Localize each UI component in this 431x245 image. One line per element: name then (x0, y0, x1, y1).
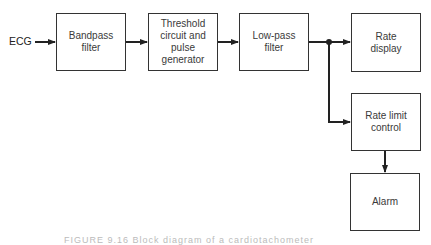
block-alarm: Alarm (350, 173, 420, 231)
block-rate-display: Rate display (351, 13, 421, 72)
ecg-input-label: ECG (9, 35, 32, 47)
block-label-line: Threshold (160, 18, 206, 30)
arrow-lowpass-to-rate-limit (329, 42, 350, 122)
block-label-line: display (370, 43, 401, 55)
block-label-line: Alarm (372, 196, 398, 208)
block-low-pass-filter: Low-pass filter (239, 13, 309, 71)
block-label-line: control (365, 122, 407, 134)
block-label-line: pulse (160, 42, 206, 54)
block-label-line: circuit and (160, 30, 206, 42)
block-label-line: filter (69, 42, 113, 54)
block-label-line: generator (160, 54, 206, 66)
block-label-line: Rate limit (365, 110, 407, 122)
block-label-line: Low-pass (253, 30, 296, 42)
block-threshold-pulse-generator: Threshold circuit and pulse generator (148, 13, 218, 71)
figure-caption: FIGURE 9.16 Block diagram of a cardiotac… (64, 235, 314, 245)
block-label-line: Bandpass (69, 30, 113, 42)
block-label-line: filter (253, 42, 296, 54)
block-label-line: Rate (370, 31, 401, 43)
block-rate-limit-control: Rate limit control (351, 93, 421, 151)
block-bandpass-filter: Bandpass filter (56, 13, 126, 71)
